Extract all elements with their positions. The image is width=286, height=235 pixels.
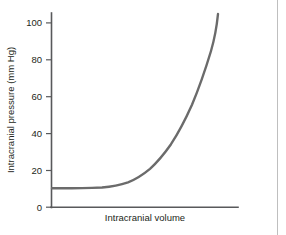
y-tick-label-100: 100 bbox=[26, 17, 42, 28]
y-tick-label-20: 20 bbox=[31, 165, 42, 176]
y-tick-label-40: 40 bbox=[31, 128, 42, 139]
pressure-volume-curve bbox=[52, 14, 218, 188]
y-tick-label-80: 80 bbox=[31, 54, 42, 65]
figure-panel: 0 20 40 60 80 100 Intracranial pressure … bbox=[0, 0, 286, 235]
intracranial-pressure-volume-chart: 0 20 40 60 80 100 Intracranial pressure … bbox=[0, 0, 286, 235]
x-axis-title: Intracranial volume bbox=[105, 212, 185, 223]
y-tick-label-60: 60 bbox=[31, 91, 42, 102]
y-axis-title: Intracranial pressure (mm Hg) bbox=[5, 47, 16, 173]
y-tick-label-0: 0 bbox=[37, 202, 42, 213]
panel-divider bbox=[277, 0, 278, 235]
